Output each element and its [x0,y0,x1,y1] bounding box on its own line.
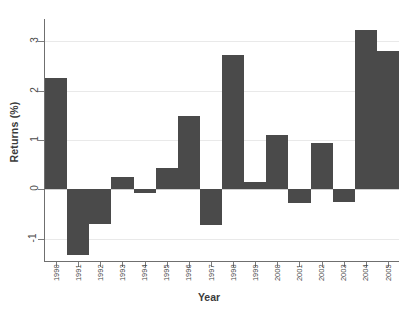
x-tick-label: 2005 [381,269,395,295]
gridline-y-3 [45,41,399,42]
x-tick-label-text: 1991 [74,264,82,281]
x-tick-label: 1992 [93,269,107,295]
bar-chart: Returns (%) -10123 Year 1990199119921993… [0,0,418,309]
y-tick-mark [38,140,44,141]
y-tick-label: 3 [22,35,38,45]
x-tick-label: 1991 [71,269,85,295]
bar[interactable] [178,116,200,189]
bar[interactable] [266,135,288,189]
y-tick-mark [38,41,44,42]
bar[interactable] [156,168,178,189]
bar[interactable] [45,78,67,189]
x-tick-label-text: 1992 [97,264,105,281]
x-tick-label-text: 1995 [163,264,171,281]
y-axis-tick-labels: -10123 [22,0,38,309]
x-tick-label: 1997 [204,269,218,295]
x-tick-label-text: 1998 [229,264,237,281]
x-tick-label: 1990 [49,269,63,295]
x-tick-label: 1999 [248,269,262,295]
y-tick-mark [38,91,44,92]
y-tick-label-text: -1 [29,233,39,242]
x-tick-label: 2000 [270,269,284,295]
bar[interactable] [311,143,333,189]
x-tick-label: 1993 [115,269,129,295]
plot-area [45,19,399,261]
bar[interactable] [333,189,355,202]
y-tick-mark [38,189,44,190]
x-tick-label: 2002 [315,269,329,295]
x-tick-label: 1995 [160,269,174,295]
x-tick-label: 2004 [359,269,373,295]
bar[interactable] [377,51,399,189]
y-tick-mark [38,239,44,240]
x-tick-label-text: 1994 [141,264,149,281]
x-tick-label-text: 1999 [251,264,259,281]
x-tick-label-text: 1990 [52,264,60,281]
y-axis-title-text: Returns (%) [8,101,20,162]
x-tick-label: 1994 [138,269,152,295]
x-tick-label-text: 2000 [274,264,282,281]
y-tick-label: 1 [22,134,38,144]
bar[interactable] [67,189,89,255]
x-tick-label: 2003 [337,269,351,295]
bar[interactable] [288,189,310,202]
x-tick-label: 1998 [226,269,240,295]
x-tick-label-text: 2003 [340,264,348,281]
x-tick-label: 1996 [182,269,196,295]
x-tick-label-text: 2001 [296,264,304,281]
bar[interactable] [134,189,156,192]
y-tick-label: 0 [22,183,38,193]
bar[interactable] [244,182,266,189]
x-tick-label: 2001 [292,269,306,295]
x-tick-label-text: 1996 [185,264,193,281]
y-tick-label: 2 [22,85,38,95]
x-tick-label-text: 2002 [318,264,326,281]
x-tick-label-text: 1997 [207,264,215,281]
bar[interactable] [89,189,111,224]
bar[interactable] [355,30,377,190]
gridline-y--1 [45,239,399,240]
x-tick-label-text: 1993 [119,264,127,281]
y-tick-label: -1 [22,233,38,243]
bar[interactable] [222,55,244,189]
x-axis-line [44,261,399,262]
bar[interactable] [111,177,133,189]
x-tick-label-text: 2005 [384,264,392,281]
x-tick-label-text: 2004 [362,264,370,281]
bar[interactable] [200,189,222,225]
